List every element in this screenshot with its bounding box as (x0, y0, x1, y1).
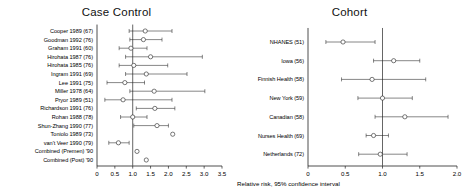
estimate-marker (171, 132, 175, 136)
cohort-plot-area (233, 0, 466, 194)
study-label: Iowa (56) (281, 58, 304, 64)
study-label: Combined (Premen) '90 (35, 148, 93, 154)
study-label: Finnish Health (58) (258, 76, 304, 82)
study-label: Cooper 1989 (67) (50, 28, 93, 34)
study-label: Graham 1991 (60) (48, 45, 93, 51)
estimate-marker (153, 106, 157, 110)
x-tick-label: 1.0 (378, 170, 387, 177)
study-label: van't Veer 1990 (79) (44, 140, 93, 146)
estimate-marker (121, 98, 125, 102)
forest-plot-figure: Case Control Cooper 1989 (67)Goodman 199… (0, 0, 466, 194)
panel-cohort: Cohort NHANES (51)Iowa (56)Finnish Healt… (233, 0, 466, 194)
x-tick-label: 3.0 (200, 170, 209, 177)
estimate-marker (131, 115, 135, 119)
x-tick-label: 1.0 (128, 170, 137, 177)
study-label: Hirohata 1985 (76) (47, 62, 93, 68)
study-label: Goodman 1992 (76) (44, 37, 93, 43)
study-label: Canadian (58) (269, 114, 304, 120)
estimate-marker (152, 89, 156, 93)
x-tick-label: 0.5 (341, 170, 350, 177)
case-control-plot-area (0, 0, 233, 194)
study-label: NHANES (51) (270, 39, 304, 45)
study-label: New York (59) (270, 95, 304, 101)
x-tick-label: 0 (306, 170, 309, 177)
estimate-marker (148, 55, 152, 59)
x-axis-caption: Relative risk, 95% confidence interval (237, 180, 340, 187)
estimate-marker (123, 81, 127, 85)
study-label: Pryor 1989 (51) (55, 97, 93, 103)
x-tick-label: 1.5 (415, 170, 424, 177)
estimate-marker (129, 46, 133, 50)
study-label: Miller 1978 (64) (55, 88, 93, 94)
study-label: Hirohata 1987 (76) (47, 54, 93, 60)
study-label: Shun-Zhang 1990 (77) (38, 123, 93, 129)
estimate-marker (370, 77, 374, 81)
x-tick-label: 1.5 (146, 170, 155, 177)
estimate-marker (378, 152, 382, 156)
estimate-marker (155, 124, 159, 128)
study-label: Ingram 1991 (69) (51, 71, 93, 77)
x-tick-label: 2.5 (182, 170, 191, 177)
study-label: Toniolo 1989 (73) (51, 131, 93, 137)
study-label: Rohan 1988 (78) (52, 114, 93, 120)
x-tick-label: 0.5 (111, 170, 120, 177)
estimate-marker (341, 40, 345, 44)
study-label: Netherlands (72) (263, 151, 304, 157)
study-label: Combined (Post) '90 (43, 157, 93, 163)
estimate-marker (380, 96, 384, 100)
estimate-marker (392, 59, 396, 63)
estimate-marker (143, 29, 147, 33)
x-tick-label: 2.0 (453, 170, 462, 177)
estimate-marker (141, 38, 145, 42)
x-tick-label: 2.0 (164, 170, 173, 177)
estimate-marker (132, 63, 136, 67)
panel-case-control: Case Control Cooper 1989 (67)Goodman 199… (0, 0, 233, 194)
estimate-marker (144, 72, 148, 76)
study-label: Lee 1991 (75) (59, 80, 93, 86)
estimate-marker (116, 141, 120, 145)
study-label: Nurses Health (69) (258, 133, 304, 139)
estimate-marker (371, 133, 375, 137)
x-tick-label: 0 (95, 170, 98, 177)
estimate-marker (144, 158, 148, 162)
estimate-marker (135, 149, 139, 153)
x-tick-label: 3.5 (218, 170, 227, 177)
estimate-marker (403, 115, 407, 119)
study-label: Richardson 1991 (76) (40, 105, 93, 111)
